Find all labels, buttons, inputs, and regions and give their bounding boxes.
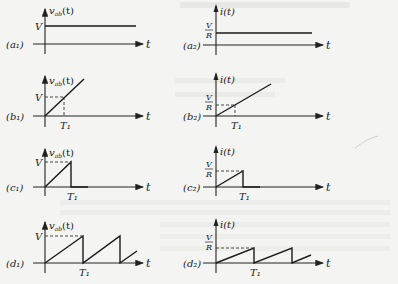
y-axis-label: vab(t) bbox=[49, 220, 74, 232]
y-axis-label: vab(t) bbox=[49, 5, 74, 17]
waveform bbox=[45, 162, 88, 187]
t-label: t bbox=[146, 110, 151, 123]
t-label: t bbox=[146, 257, 151, 270]
tick-label: T₁ bbox=[250, 267, 261, 278]
panel-a1: vab(t) V t (a₁) bbox=[6, 5, 151, 54]
panel-c2: i(t) V R T₁ t (c₂) bbox=[183, 145, 331, 202]
y-axis-label: i(t) bbox=[220, 146, 235, 157]
t-label: t bbox=[326, 181, 331, 194]
waveform bbox=[216, 171, 260, 187]
y-axis-label: i(t) bbox=[220, 6, 235, 17]
level-label: V bbox=[35, 157, 44, 168]
waveform bbox=[216, 84, 271, 116]
bleed-through-background bbox=[60, 2, 390, 251]
waveform-figure: vab(t) V t (a₁) i(t) V R t (a₂) vab(t) V… bbox=[0, 0, 398, 284]
tick-label: T₁ bbox=[231, 120, 242, 131]
level-label: V bbox=[35, 92, 44, 103]
y-axis-label: vab(t) bbox=[49, 75, 74, 87]
panel-label: (b₂) bbox=[183, 111, 201, 122]
level-numerator: V bbox=[206, 160, 213, 169]
panel-a2: i(t) V R t (a₂) bbox=[183, 4, 331, 55]
level-denominator: R bbox=[205, 243, 212, 252]
t-label: t bbox=[326, 257, 331, 270]
level-denominator: R bbox=[205, 170, 212, 179]
waveform bbox=[45, 236, 137, 263]
t-label: t bbox=[146, 181, 151, 194]
level-denominator: R bbox=[205, 103, 212, 112]
panel-b1: vab(t) V T₁ t (b₁) bbox=[6, 75, 151, 131]
tick-label: T₁ bbox=[60, 120, 71, 131]
y-axis-label: vab(t) bbox=[49, 147, 74, 159]
level-denominator: R bbox=[205, 31, 212, 40]
level-numerator: V bbox=[206, 21, 213, 30]
panel-label: (c₁) bbox=[6, 182, 24, 193]
panel-label: (a₁) bbox=[6, 39, 24, 50]
level-label: V bbox=[35, 231, 44, 242]
y-axis-label: i(t) bbox=[220, 219, 235, 230]
tick-label: T₁ bbox=[79, 267, 90, 278]
t-label: t bbox=[146, 38, 151, 51]
panel-label: (d₁) bbox=[6, 258, 24, 269]
panel-label: (d₂) bbox=[183, 258, 201, 269]
panel-label: (b₁) bbox=[6, 111, 24, 122]
t-label: t bbox=[326, 110, 331, 123]
level-label: V bbox=[35, 21, 44, 32]
panel-d1: vab(t) V T₁ t (d₁) bbox=[6, 220, 151, 278]
t-label: t bbox=[326, 39, 331, 52]
panel-label: (c₂) bbox=[183, 182, 201, 193]
y-axis-label: i(t) bbox=[220, 74, 235, 85]
panel-label: (a₂) bbox=[183, 40, 201, 51]
panel-c1: vab(t) V T₁ t (c₁) bbox=[6, 147, 151, 202]
tick-label: T₁ bbox=[67, 191, 78, 202]
tick-label: T₁ bbox=[239, 191, 250, 202]
